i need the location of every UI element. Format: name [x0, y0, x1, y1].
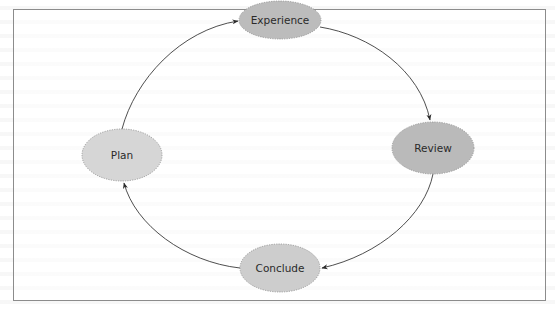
node-plan: Plan [82, 129, 162, 181]
node-conclude-label: Conclude [256, 262, 305, 274]
edge-review-to-conclude [322, 174, 433, 268]
edge-experience-to-review [320, 27, 430, 120]
edge-conclude-to-plan [124, 183, 240, 268]
node-review: Review [392, 122, 474, 174]
edge-plan-to-experience [122, 21, 238, 129]
cycle-diagram: Experience Review Conclude Plan [0, 0, 555, 311]
node-review-label: Review [414, 142, 452, 154]
node-experience: Experience [239, 1, 321, 39]
node-plan-label: Plan [111, 149, 133, 161]
node-conclude: Conclude [240, 244, 320, 292]
node-experience-label: Experience [251, 14, 310, 26]
